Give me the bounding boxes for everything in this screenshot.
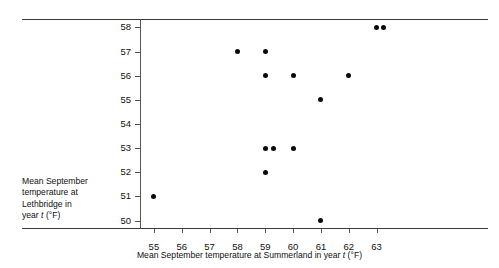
data-point <box>346 73 351 78</box>
data-point <box>291 146 296 151</box>
plot-area <box>140 19 488 229</box>
y-axis-title-units: (°F) <box>44 210 61 220</box>
y-axis-title-line-2: temperature at <box>22 187 122 198</box>
x-tick-mark <box>237 229 238 233</box>
y-tick-label-text: 58 <box>104 22 131 32</box>
x-tick-mark <box>154 229 155 233</box>
data-point <box>263 146 268 151</box>
data-point <box>318 97 323 102</box>
y-axis-title-line-3: Lethbridge in <box>22 199 122 210</box>
y-tick-label: 54 <box>104 119 131 129</box>
y-axis-title-line-4: year t (°F) <box>22 210 122 221</box>
data-point <box>271 146 276 151</box>
y-tick-label: 57 <box>104 47 131 57</box>
x-axis-title: Mean September temperature at Summerland… <box>0 250 499 261</box>
y-tick-label-text: 55 <box>104 95 131 105</box>
data-point <box>263 170 268 175</box>
y-tick-label-text: 54 <box>104 119 131 129</box>
data-point <box>291 73 296 78</box>
x-tick-mark <box>182 229 183 233</box>
x-axis-title-text: Mean September temperature at Summerland… <box>137 250 343 260</box>
y-tick-label-text: 56 <box>104 71 131 81</box>
y-axis-title-line-1: Mean September <box>22 176 122 187</box>
y-tick-label: 56 <box>104 71 131 81</box>
scatter-plot-figure: 505152535455565758 555657585960616263 Me… <box>0 0 499 268</box>
x-tick-mark <box>321 229 322 233</box>
x-tick-mark <box>293 229 294 233</box>
y-tick-label: 53 <box>104 143 131 153</box>
y-tick-label: 55 <box>104 95 131 105</box>
data-point <box>263 49 268 54</box>
data-point <box>374 25 379 30</box>
x-tick-mark <box>349 229 350 233</box>
x-tick-mark <box>210 229 211 233</box>
data-point <box>235 49 240 54</box>
data-point <box>151 194 156 199</box>
x-tick-mark <box>265 229 266 233</box>
y-tick-label: 58 <box>104 22 131 32</box>
x-tick-mark <box>377 229 378 233</box>
data-point <box>263 73 268 78</box>
y-tick-label-text: 57 <box>104 47 131 57</box>
x-axis-title-units: (°F) <box>345 250 362 260</box>
data-point <box>381 25 386 30</box>
y-axis-title-year-text: year <box>22 210 41 220</box>
data-point <box>318 218 323 223</box>
y-tick-label-text: 53 <box>104 143 131 153</box>
y-axis-title: Mean September temperature at Lethbridge… <box>22 176 122 222</box>
